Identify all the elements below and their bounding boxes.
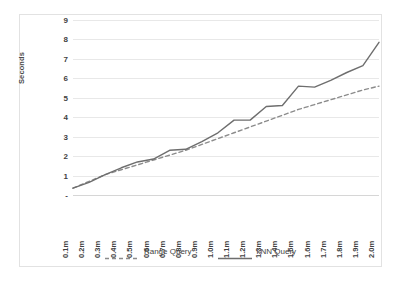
y-axis-tick-label: - [65,191,68,200]
y-axis-tick-label: 7 [64,54,68,63]
legend-swatch-icon [218,248,252,255]
y-axis-tick-label: 6 [64,74,68,83]
chart-legend: Range QuerykNN Query [20,247,381,256]
plot-wrapper: Seconds -123456789 0.1m0.2m0.3m0.4m0.5m0… [20,15,381,266]
y-axis-tick-label: 8 [64,35,68,44]
y-axis-title: Seconds [17,33,26,103]
y-axis-tick-label: 4 [64,113,68,122]
y-axis-tick-label: 1 [64,171,68,180]
y-axis-tick-label: 3 [64,132,68,141]
y-axis-tick-label: 9 [64,16,68,25]
legend-swatch-icon [105,248,139,255]
y-axis-tick-label: 5 [64,93,68,102]
y-axis-tick-label: 2 [64,152,68,161]
series-line-knn-query [73,42,379,188]
legend-item-range-query[interactable]: Range Query [105,247,192,256]
legend-label: Range Query [144,247,192,256]
plot-area: -123456789 [73,20,379,195]
legend-item-knn-query[interactable]: kNN Query [218,247,297,256]
legend-label: kNN Query [257,247,297,256]
series-line-range-query [73,86,379,188]
series-lines [73,20,379,195]
chart-container: Seconds -123456789 0.1m0.2m0.3m0.4m0.5m0… [19,14,382,267]
x-axis-line [73,195,379,196]
